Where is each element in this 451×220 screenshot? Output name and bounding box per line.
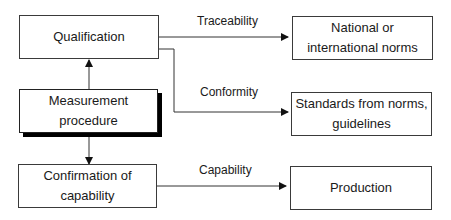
node-confirmation-of-capability: Confirmation of capability [18, 164, 157, 208]
node-production: Production [290, 166, 432, 210]
node-standards-label: Standards from norms, guidelines [295, 94, 427, 134]
node-standards: Standards from norms, guidelines [291, 92, 432, 136]
node-qualification: Qualification [19, 15, 159, 59]
node-qualification-label: Qualification [53, 27, 125, 47]
node-production-label: Production [330, 178, 392, 198]
edge-label-traceability: Traceability [197, 14, 258, 28]
node-national-norms: National or international norms [292, 16, 433, 60]
node-measurement-procedure: Measurement procedure [19, 89, 158, 133]
node-national-label: National or international norms [307, 18, 418, 58]
edge-label-conformity: Conformity [200, 85, 258, 99]
node-confirmation-label: Confirmation of capability [43, 166, 131, 206]
edge-label-capability: Capability [199, 163, 252, 177]
node-measurement-label: Measurement procedure [49, 91, 128, 131]
